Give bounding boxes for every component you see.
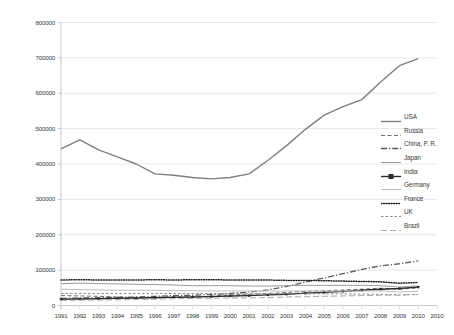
x-tick-label: 2010: [424, 312, 450, 319]
legend-item-india[interactable]: India: [381, 164, 453, 178]
legend-item-usa[interactable]: USA: [381, 110, 453, 124]
legend-swatch-icon: [381, 112, 401, 121]
series-line-japan: [61, 283, 418, 287]
legend-item-germany[interactable]: Germany: [381, 178, 453, 192]
series-line-usa: [61, 59, 418, 179]
legend-item-russia[interactable]: Russia: [381, 124, 453, 138]
y-tick-label: 300000: [15, 195, 55, 202]
legend-item-uk[interactable]: UK: [381, 205, 453, 219]
series-lines: [60, 59, 420, 301]
series-marker: [135, 297, 137, 299]
series-marker: [398, 287, 400, 289]
legend-swatch-icon: [381, 194, 401, 203]
legend-item-japan[interactable]: Japan: [381, 151, 453, 165]
legend-swatch-icon: [381, 167, 401, 176]
legend-label: Germany: [404, 181, 430, 188]
legend-label: China, P. R.: [404, 140, 436, 147]
series-marker: [191, 296, 193, 298]
y-tick-label: 400000: [15, 160, 55, 167]
series-marker: [173, 296, 175, 298]
series-marker: [417, 286, 419, 288]
legend-label: USA: [404, 113, 417, 120]
series-marker: [379, 288, 381, 290]
y-tick-label: 600000: [15, 89, 55, 96]
y-tick-label: 200000: [15, 231, 55, 238]
series-marker: [154, 297, 156, 299]
legend-label: Japan: [404, 154, 421, 161]
series-marker: [229, 295, 231, 297]
legend-item-china-p-r[interactable]: China, P. R.: [381, 137, 453, 151]
series-marker: [210, 295, 212, 297]
y-tick-label: 800000: [15, 19, 55, 26]
x-tick-marks: [61, 306, 437, 310]
axis-lines: [58, 23, 61, 310]
y-tick-label: 700000: [15, 54, 55, 61]
legend-swatch-icon: [381, 153, 401, 162]
chart-legend: USARussiaChina, P. R.JapanIndiaGermanyFr…: [381, 110, 453, 232]
legend-swatch-icon: [381, 221, 401, 230]
legend-item-brazil[interactable]: Brazil: [381, 219, 453, 233]
y-tick-label: 100000: [15, 266, 55, 273]
legend-swatch-icon: [381, 126, 401, 135]
legend-label: India: [404, 168, 417, 175]
y-tick-label: 0: [15, 302, 55, 309]
legend-label: Brazil: [404, 222, 419, 229]
line-chart: 8000007000006000005000004000003000002000…: [0, 0, 454, 335]
legend-swatch-icon: [381, 180, 401, 189]
series-marker: [323, 291, 325, 293]
legend-label: Russia: [404, 127, 423, 134]
legend-label: UK: [404, 208, 413, 215]
series-marker: [60, 298, 62, 300]
legend-item-france[interactable]: France: [381, 192, 453, 206]
series-marker: [116, 297, 118, 299]
y-tick-label: 500000: [15, 125, 55, 132]
legend-swatch-icon: [381, 139, 401, 148]
legend-label: France: [404, 195, 423, 202]
series-line-france: [61, 280, 418, 284]
legend-swatch-icon: [381, 207, 401, 216]
series-marker: [248, 294, 250, 296]
